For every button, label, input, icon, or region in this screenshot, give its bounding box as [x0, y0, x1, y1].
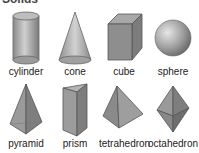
cube-icon: [104, 10, 144, 66]
page-title-clipped: Solids: [2, 0, 38, 6]
sphere-icon: [153, 10, 193, 66]
octahedron-icon: [153, 82, 193, 138]
shape-label: pyramid: [1, 138, 51, 149]
shape-label: sphere: [148, 66, 198, 77]
shape-label: cube: [99, 66, 149, 77]
shape-label: octahedron: [148, 138, 198, 149]
shape-octahedron: octahedron: [148, 82, 198, 149]
shape-label: tetrahedron: [99, 138, 149, 149]
cone-icon: [55, 10, 95, 66]
shape-label: cone: [50, 66, 100, 77]
shape-sphere: sphere: [148, 10, 198, 77]
prism-icon: [55, 82, 95, 138]
shape-tetrahedron: tetrahedron: [99, 82, 149, 149]
shape-prism: prism: [50, 82, 100, 149]
shape-cylinder: cylinder: [1, 10, 51, 77]
tetrahedron-icon: [101, 82, 147, 138]
shape-label: prism: [50, 138, 100, 149]
shape-cube: cube: [99, 10, 149, 77]
pyramid-icon: [6, 82, 46, 138]
cylinder-icon: [8, 10, 44, 66]
shape-cone: cone: [50, 10, 100, 77]
shape-pyramid: pyramid: [1, 82, 51, 149]
shape-label: cylinder: [1, 66, 51, 77]
